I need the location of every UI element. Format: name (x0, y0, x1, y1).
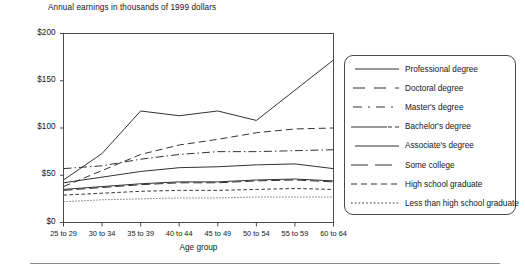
legend-item-label: Some college (405, 161, 455, 170)
legend-item-label: Professional degree (405, 65, 478, 74)
legend-line-swatch (349, 198, 401, 208)
x-axis-title: Age group (0, 243, 397, 252)
legend-line-swatch (349, 83, 401, 93)
figure: Annual earnings in thousands of 1999 dol… (0, 0, 525, 273)
legend-line-swatch (349, 141, 401, 151)
legend-item[interactable]: Professional degree (349, 59, 478, 79)
legend-item-label: Associate's degree (405, 141, 474, 150)
legend-item-label: Doctoral degree (405, 84, 463, 93)
legend-item[interactable]: Bachelor's degree (349, 117, 471, 137)
legend: Professional degreeDoctoral degreeMaster… (344, 55, 516, 215)
x-tick-label: 60 to 64 (310, 229, 358, 238)
series-line (64, 197, 334, 202)
legend-item[interactable]: Master's degree (349, 97, 463, 117)
y-tick-label: $50 (16, 169, 56, 178)
legend-line-swatch (349, 102, 401, 112)
legend-line-swatch (349, 160, 401, 170)
series-line (64, 188, 334, 195)
series-lines (64, 60, 334, 202)
legend-item-label: Bachelor's degree (405, 122, 471, 131)
series-line (64, 128, 334, 187)
legend-item[interactable]: High school graduate (349, 174, 482, 194)
legend-item[interactable]: Less than high school graduate (349, 193, 519, 213)
legend-item[interactable]: Some college (349, 155, 455, 175)
series-line (64, 150, 334, 169)
legend-item[interactable]: Associate's degree (349, 136, 474, 156)
legend-line-swatch (349, 64, 401, 74)
axes (64, 34, 334, 223)
footer-divider (30, 263, 500, 264)
y-tick-label: $0 (16, 217, 56, 226)
series-line (64, 60, 334, 180)
legend-line-swatch (349, 122, 401, 132)
legend-item-label: High school graduate (405, 180, 482, 189)
y-tick-label: $150 (16, 75, 56, 84)
legend-item-label: Less than high school graduate (405, 199, 519, 208)
y-tick-label: $100 (16, 122, 56, 131)
axis-ticks (60, 34, 334, 227)
legend-item[interactable]: Doctoral degree (349, 78, 463, 98)
legend-line-swatch (349, 179, 401, 189)
legend-item-label: Master's degree (405, 103, 463, 112)
plot-frame (64, 34, 334, 223)
y-tick-label: $200 (16, 28, 56, 37)
